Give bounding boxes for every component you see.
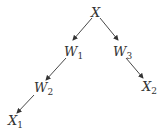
node-w1: W1 [64, 45, 83, 61]
node-w2: W2 [34, 81, 53, 97]
node-x2: X2 [142, 80, 157, 96]
edge-w3-x2 [126, 58, 143, 78]
edge-x-w1 [73, 18, 92, 40]
diagram-edges [0, 0, 161, 133]
node-w3: W3 [113, 45, 132, 61]
node-x1: X1 [8, 114, 23, 130]
node-x: X [91, 6, 100, 22]
edge-w2-x1 [17, 95, 34, 113]
edge-w1-w2 [46, 58, 66, 80]
edge-x-w3 [100, 18, 118, 40]
